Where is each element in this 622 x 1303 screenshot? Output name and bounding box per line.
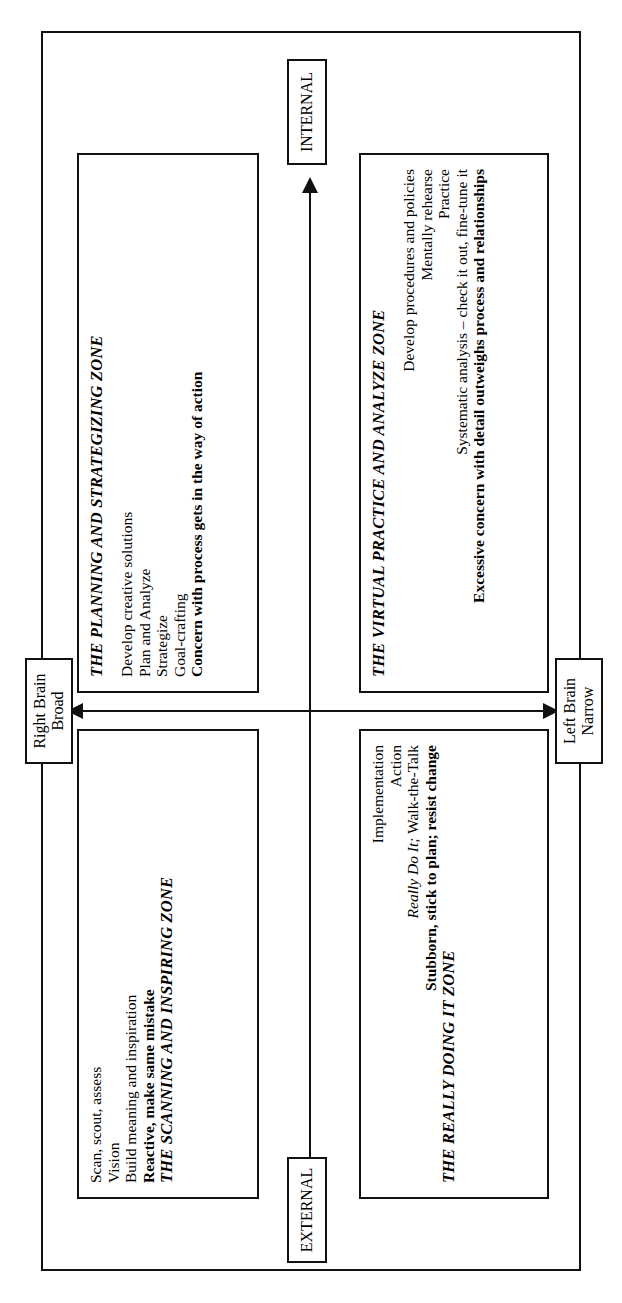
quadrant-item: Scan, scout, assess (87, 989, 105, 1183)
pole-label-internal: INTERNAL (287, 59, 327, 165)
quadrant-item: Vision (105, 989, 123, 1183)
quadrant-item: Mentally rehearse (418, 169, 436, 603)
figure-rotated-container: Right Brain Broad Left Brain Narrow EXTE… (41, 31, 581, 1271)
quadrant-item: Systematic analysis – check it out, fine… (453, 169, 471, 603)
quadrant-virtual-practice-and-analyze: THE VIRTUAL PRACTICE AND ANALYZE ZONE De… (359, 153, 549, 693)
axis-arrowhead-right (302, 177, 318, 193)
pole-left-label: EXTERNAL (298, 1168, 316, 1252)
quadrant-doing-title: THE REALLY DOING IT ZONE (439, 950, 459, 1183)
quadrant-scanning-and-inspiring: Scan, scout, assessVisionBuild meaning a… (77, 729, 259, 1199)
quadrant-item: Action (387, 745, 405, 991)
pole-top-line1: Right Brain (31, 673, 49, 748)
quadrant-virtual-list: Develop procedures and policiesMentally … (400, 169, 488, 603)
quadrant-item: Develop procedures and policies (400, 169, 418, 603)
quadrant-item: Develop creative solutions (118, 372, 136, 677)
quadrant-item: Stubborn, stick to plan; resist change (422, 745, 440, 991)
quadrant-scanning-list: Scan, scout, assessVisionBuild meaning a… (87, 989, 157, 1183)
quadrant-really-doing-it: ImplementationActionReally Do It; Walk-t… (359, 729, 549, 1199)
quadrant-item: Practice (435, 169, 453, 603)
quadrant-item: Strategize (153, 372, 171, 677)
pole-right-label: INTERNAL (298, 72, 316, 152)
quadrant-item: Reactive, make same mistake (140, 989, 158, 1183)
quadrant-planning-title: THE PLANNING AND STRATEGIZING ZONE (87, 335, 107, 677)
quadrant-item: Concern with process gets in the way of … (188, 372, 206, 677)
vertical-axis-line (77, 710, 549, 712)
quadrant-item: Really Do It; Walk-the-Talk (404, 745, 422, 991)
quadrant-item: Build meaning and inspiration (122, 989, 140, 1183)
quadrant-item: Plan and Analyze (136, 372, 154, 677)
pole-label-left-brain-narrow: Left Brain Narrow (555, 658, 603, 764)
pole-label-right-brain-broad: Right Brain Broad (25, 658, 73, 764)
quadrant-item: Implementation (369, 745, 387, 991)
quadrant-planning-and-strategizing: THE PLANNING AND STRATEGIZING ZONE Devel… (77, 153, 259, 693)
pole-bottom-line1: Left Brain (561, 678, 579, 744)
quadrant-scanning-title: THE SCANNING AND INSPIRING ZONE (157, 877, 177, 1183)
pole-bottom-line2: Narrow (579, 678, 597, 744)
quadrant-item: Goal-crafting (171, 372, 189, 677)
quadrant-doing-list: ImplementationActionReally Do It; Walk-t… (369, 745, 439, 991)
scanned-page: Right Brain Broad Left Brain Narrow EXTE… (0, 0, 622, 1303)
pole-label-external: EXTERNAL (287, 1157, 327, 1263)
quadrant-virtual-title: THE VIRTUAL PRACTICE AND ANALYZE ZONE (369, 309, 389, 677)
pole-top-line2: Broad (49, 673, 67, 748)
horizontal-axis-line (309, 179, 311, 1179)
quadrant-item: Excessive concern with detail outweighs … (470, 169, 488, 603)
quadrant-planning-list: Develop creative solutionsPlan and Analy… (118, 372, 206, 677)
